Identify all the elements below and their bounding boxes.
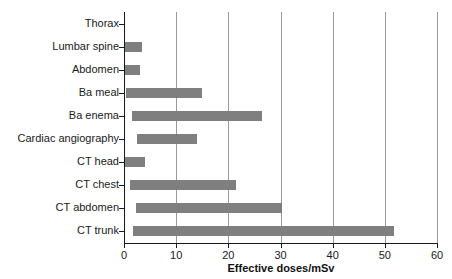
y-axis-category-labels: ThoraxLumbar spineAbdomenBa mealBa enema…: [0, 12, 119, 243]
x-tick-60: [437, 243, 438, 248]
bar: [126, 88, 202, 98]
y-tick: [119, 162, 124, 163]
y-tick: [119, 116, 124, 117]
x-axis-title: Effective doses/mSv: [124, 262, 438, 274]
y-tick: [119, 185, 124, 186]
x-tick-30: [281, 243, 282, 248]
x-tick-label-0: 0: [104, 249, 144, 261]
y-axis-label-ct-abdomen: CT abdomen: [56, 202, 119, 213]
y-axis-label-ct-head: CT head: [77, 156, 119, 167]
x-tick-label-10: 10: [156, 249, 196, 261]
bar: [124, 157, 145, 167]
bar: [130, 180, 236, 190]
y-tick: [119, 93, 124, 94]
x-tick-label-40: 40: [313, 249, 353, 261]
gridline-60: [437, 12, 438, 243]
y-tick: [119, 208, 124, 209]
x-tick-label-30: 30: [261, 249, 301, 261]
y-axis-label-cardiac-angiography: Cardiac angiography: [17, 133, 119, 144]
gridline-50: [385, 12, 386, 243]
y-tick: [119, 139, 124, 140]
x-tick-40: [333, 243, 334, 248]
chart-container: ThoraxLumbar spineAbdomenBa mealBa enema…: [0, 0, 452, 279]
y-axis-label-thorax: Thorax: [85, 18, 119, 29]
x-tick-50: [385, 243, 386, 248]
x-tick-0: [124, 243, 125, 248]
x-tick-label-20: 20: [208, 249, 248, 261]
bar: [136, 203, 282, 213]
y-tick: [119, 231, 124, 232]
bar: [132, 111, 262, 121]
x-tick-label-50: 50: [365, 249, 405, 261]
y-axis-label-ba-enema: Ba enema: [69, 110, 119, 121]
plot-area: [124, 12, 437, 243]
y-axis-line: [124, 12, 125, 243]
bar: [137, 134, 197, 144]
y-tick: [119, 70, 124, 71]
x-tick-label-60: 60: [417, 249, 452, 261]
y-axis-label-lumbar-spine: Lumbar spine: [52, 41, 119, 52]
y-tick: [119, 24, 124, 25]
y-axis-label-ct-chest: CT chest: [75, 179, 119, 190]
y-axis-label-ba-meal: Ba meal: [79, 87, 119, 98]
y-axis-label-abdomen: Abdomen: [72, 64, 119, 75]
bar: [124, 65, 140, 75]
x-tick-20: [228, 243, 229, 248]
bar: [124, 42, 142, 52]
bar: [133, 226, 394, 236]
y-axis-label-ct-trunk: CT trunk: [77, 225, 119, 236]
gridline-40: [333, 12, 334, 243]
y-tick: [119, 47, 124, 48]
x-tick-10: [176, 243, 177, 248]
